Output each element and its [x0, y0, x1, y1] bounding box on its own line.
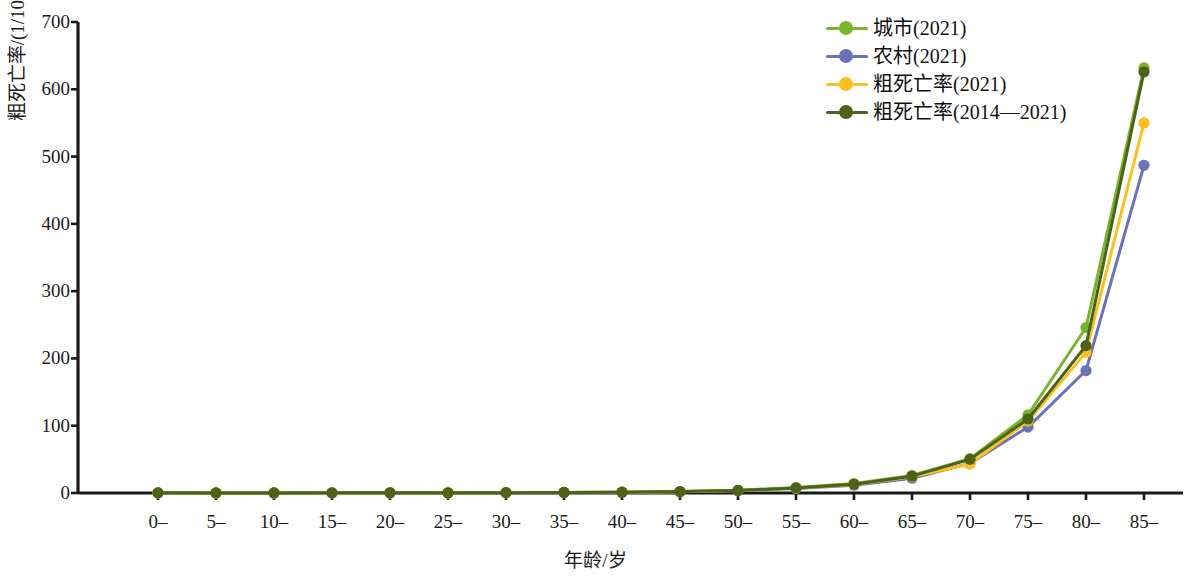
x-axis-title: 年龄/岁	[0, 545, 1191, 572]
series-point	[616, 487, 627, 498]
legend-swatch-icon	[826, 48, 868, 64]
legend-item: 城市(2021)	[826, 14, 1126, 42]
series-point	[384, 487, 395, 498]
x-axis-tick-label: 30–	[474, 512, 538, 532]
x-axis-tick-label: 5–	[184, 512, 248, 532]
series-point	[732, 485, 743, 496]
series-point	[326, 487, 337, 498]
x-axis-tick-label: 65–	[880, 512, 944, 532]
x-axis-tick-label: 40–	[590, 512, 654, 532]
chart-legend: 城市(2021)农村(2021)粗死亡率(2021)粗死亡率(2014—2021…	[826, 14, 1126, 126]
legend-label: 粗死亡率(2021)	[873, 73, 1006, 95]
series-point	[1138, 66, 1149, 77]
x-axis-tick-label: 15–	[300, 512, 364, 532]
series-point	[1080, 340, 1091, 351]
x-axis-tick-label: 20–	[358, 512, 422, 532]
series-line	[158, 72, 1144, 493]
series-point	[674, 486, 685, 497]
series-point	[848, 479, 859, 490]
y-axis-tick-label: 200	[18, 348, 70, 367]
y-axis-tick-label: 0	[18, 483, 70, 502]
legend-item: 粗死亡率(2014—2021)	[826, 98, 1126, 126]
legend-swatch-icon	[826, 20, 868, 36]
x-axis-tick-label: 80–	[1054, 512, 1118, 532]
chart-series	[152, 160, 1149, 499]
x-axis-tick-label: 25–	[416, 512, 480, 532]
x-axis-tick-label: 60–	[822, 512, 886, 532]
legend-item: 粗死亡率(2021)	[826, 70, 1126, 98]
y-axis-tick-label: 100	[18, 416, 70, 435]
x-axis-tick-label: 45–	[648, 512, 712, 532]
y-axis-tick-label: 300	[18, 281, 70, 300]
x-axis-tick-label: 50–	[706, 512, 770, 532]
series-point	[1138, 117, 1149, 128]
x-axis-tick-label: 85–	[1112, 512, 1176, 532]
chart-figure: 粗死亡率/(1/10万) 年龄/岁 0100200300400500600700…	[0, 0, 1191, 578]
y-axis-tick-label: 500	[18, 147, 70, 166]
x-axis-tick-label: 55–	[764, 512, 828, 532]
series-point	[558, 487, 569, 498]
series-point	[500, 487, 511, 498]
series-point	[1138, 160, 1149, 171]
series-point	[152, 487, 163, 498]
series-point	[210, 487, 221, 498]
series-point	[906, 471, 917, 482]
legend-label: 粗死亡率(2014—2021)	[873, 101, 1066, 123]
series-point	[790, 482, 801, 493]
chart-series	[152, 117, 1149, 498]
legend-item: 农村(2021)	[826, 42, 1126, 70]
legend-label: 农村(2021)	[873, 45, 966, 67]
legend-label: 城市(2021)	[873, 17, 966, 39]
y-axis-tick-labels: 0100200300400500600700	[8, 0, 70, 578]
series-point	[268, 487, 279, 498]
x-axis-tick-label: 35–	[532, 512, 596, 532]
chart-series	[152, 62, 1149, 498]
series-point	[442, 487, 453, 498]
chart-series	[152, 66, 1149, 498]
x-axis-tick-label: 70–	[938, 512, 1002, 532]
x-axis-tick-label: 75–	[996, 512, 1060, 532]
series-line	[158, 68, 1144, 493]
y-axis-tick-label: 400	[18, 214, 70, 233]
x-axis-tick-label: 10–	[242, 512, 306, 532]
series-point	[1080, 365, 1091, 376]
series-point	[964, 454, 975, 465]
legend-swatch-icon	[826, 104, 868, 120]
y-axis-tick-label: 700	[18, 12, 70, 31]
x-axis-tick-label: 0–	[126, 512, 190, 532]
series-point	[1022, 413, 1033, 424]
legend-swatch-icon	[826, 76, 868, 92]
y-axis-tick-label: 600	[18, 79, 70, 98]
